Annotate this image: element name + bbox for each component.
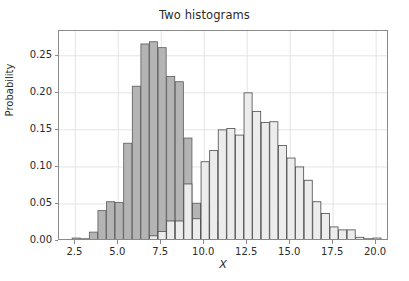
x-tick-mark [117, 240, 118, 244]
x-tick-mark [203, 240, 204, 244]
x-tick-labels: 2.55.07.510.012.515.017.520.0 [0, 0, 409, 281]
x-tick-mark [289, 240, 290, 244]
x-tick-mark [246, 240, 247, 244]
x-tick-label: 20.0 [350, 246, 400, 257]
x-tick-mark [160, 240, 161, 244]
x-tick-mark [74, 240, 75, 244]
x-tick-mark [332, 240, 333, 244]
x-tick-mark [375, 240, 376, 244]
histogram-figure: Two histograms Probability X 0.000.050.1… [0, 0, 409, 281]
